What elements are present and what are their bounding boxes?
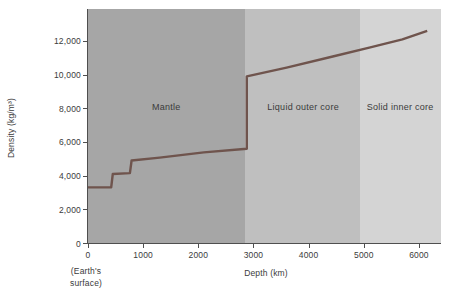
density-depth-figure: MantleLiquid outer coreSolid inner core …: [0, 0, 465, 306]
earths-surface-note-line2: surface): [70, 278, 102, 290]
y-axis-title: Density (kg/m³): [6, 98, 16, 158]
y-tick-label: 8,000: [59, 104, 81, 114]
x-tick-label: 1000: [133, 250, 153, 260]
y-tick-label: 4,000: [59, 171, 81, 181]
earths-surface-note: (Earth's surface): [70, 266, 102, 289]
y-tick-label: 6,000: [59, 137, 81, 147]
x-tick-label: 5000: [354, 250, 374, 260]
x-tick-label: 0: [86, 250, 91, 260]
earths-surface-note-line1: (Earth's: [70, 266, 102, 278]
y-tick-label: 2,000: [59, 205, 81, 215]
x-tick-label: 4000: [299, 250, 319, 260]
y-tick-label: 10,000: [54, 70, 81, 80]
y-tick-label: 12,000: [54, 36, 81, 46]
x-tick-label: 6000: [409, 250, 429, 260]
x-tick-label: 2000: [189, 250, 209, 260]
y-tick-label: 0: [76, 239, 81, 249]
x-axis-title: Depth (km): [244, 268, 288, 278]
labels-layer: 02,0004,0006,0008,00010,00012,0000100020…: [0, 0, 465, 306]
x-tick-label: 3000: [244, 250, 264, 260]
